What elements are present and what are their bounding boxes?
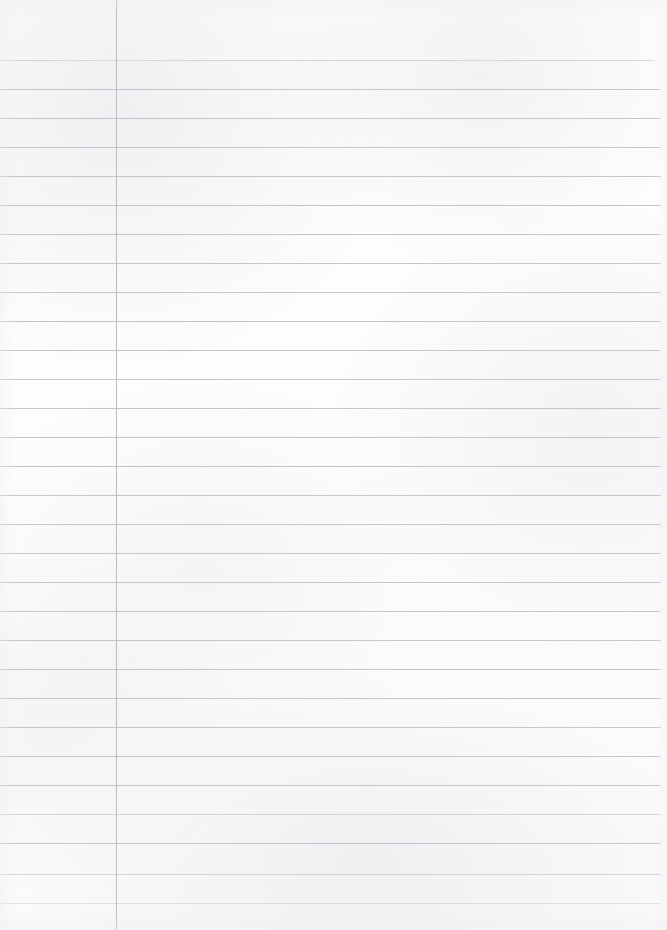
writing-area[interactable]	[117, 0, 667, 930]
ruled-paper-sheet	[0, 0, 667, 930]
